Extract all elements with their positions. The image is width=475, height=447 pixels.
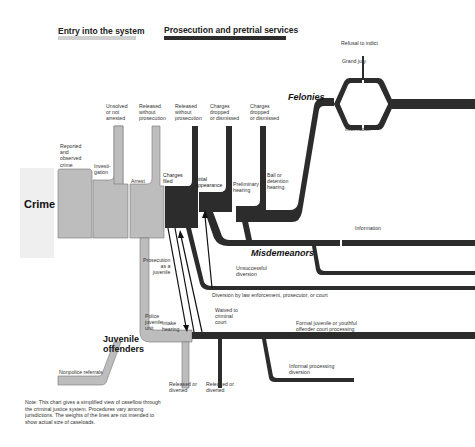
- juvenile-offenders-label: Juvenile offenders: [103, 334, 144, 354]
- preliminary-hearing-label: Preliminary hearing: [233, 181, 259, 193]
- prosecution-as-juvenile-line: [168, 228, 186, 327]
- charges-dropped-2-label: Charges dropped or dismissed: [250, 103, 279, 122]
- charges-filed-label: Charges filed: [163, 172, 183, 184]
- misd-to-unsuccessful: [312, 246, 475, 275]
- information-felony-label: Information: [345, 126, 371, 132]
- grand-jury-label: Grand jury: [342, 58, 366, 64]
- diversion-lane: [186, 228, 475, 290]
- legend-bar-entry: [58, 36, 136, 40]
- formal-juvenile-processing-label: Formal juvenile or youthful offender cou…: [296, 320, 357, 332]
- preliminary-block: [236, 126, 266, 212]
- nonpolice-referrals-label: Nonpolice referrals: [59, 369, 103, 375]
- diversion-label: Diversion by law enforcement, prosecutor…: [212, 292, 328, 298]
- felony-output: [392, 99, 475, 109]
- juvenile-formal: [192, 332, 475, 339]
- informal-processing-label: Informal processing diversion: [289, 363, 334, 375]
- released-without-prosecution-1-label: Released without prosecution: [139, 103, 166, 122]
- grand-jury-bar-right: [364, 78, 374, 83]
- info-lower-ascend: [374, 100, 394, 130]
- misdemeanors-label: Misdemeanors: [251, 248, 314, 258]
- released-without-prosecution-2-label: Released without prosecution: [175, 103, 202, 122]
- unsolved-exit: [114, 126, 123, 184]
- prosecution-as-juvenile-label: Prosecution as a juvenile: [143, 257, 170, 276]
- initial-appearance-block: [199, 126, 232, 212]
- legend-bar-prosecution: [164, 36, 286, 40]
- legend-entry-label: Entry into the system: [58, 26, 144, 36]
- bail-hearing-label: Bail or detention hearing: [267, 172, 288, 191]
- released-diverted-2-label: Released or diverted: [206, 381, 234, 393]
- intake-hearing-label: Intake hearing: [162, 320, 179, 332]
- felonies-label: Felonies: [288, 92, 325, 102]
- arrest-label: Arrest: [131, 178, 145, 184]
- investigation-label: Investi- gation: [94, 163, 111, 175]
- misdemeanor-output: [342, 240, 475, 246]
- reported-crime-block: [58, 169, 92, 238]
- caseflow-diagram: [0, 0, 475, 447]
- initial-appearance-label: Initial appearance: [195, 176, 222, 188]
- released-diverted-1-label: Released or diverted: [169, 381, 197, 393]
- refusal-to-indict-label: Refusal to indict: [341, 40, 378, 46]
- crime-label: Crime: [24, 198, 55, 210]
- informal-branch: [262, 339, 354, 382]
- arrow-head-waived: [178, 230, 184, 238]
- charges-dropped-1-label: Charges dropped or dismissed: [210, 103, 239, 122]
- police-juvenile-unit-label: Police juvenile unit: [145, 313, 163, 332]
- reported-crime-label: Reported and observed crime: [60, 143, 81, 168]
- unsolved-label: Unsolved or not arrested: [106, 103, 128, 122]
- crime-band: [20, 168, 54, 258]
- information-misdemeanor-label: Information: [355, 225, 381, 231]
- legend-prosecution-label: Prosecution and pretrial services: [164, 25, 298, 35]
- waived-to-criminal-court-label: Waived to criminal court: [215, 307, 238, 326]
- unsuccessful-diversion-label: Unsuccessful diversion: [236, 265, 267, 277]
- footnote: Note: This chart gives a simplified view…: [25, 399, 165, 425]
